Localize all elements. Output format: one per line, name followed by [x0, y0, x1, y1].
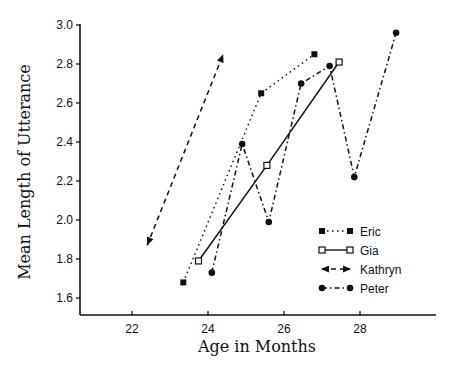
line-chart: 1.61.82.02.22.42.62.83.022242628 EricGia…	[0, 0, 450, 371]
open-square-marker	[319, 247, 325, 253]
series-line	[199, 62, 340, 261]
circle-marker	[266, 219, 273, 226]
x-tick-label: 28	[353, 322, 367, 336]
y-tick-label: 2.8	[56, 57, 73, 71]
y-tick-label: 2.6	[56, 96, 73, 110]
circle-marker	[351, 174, 358, 181]
open-square-marker	[264, 162, 270, 168]
y-tick-label: 3.0	[56, 18, 73, 32]
square-marker	[180, 279, 186, 285]
circle-marker	[239, 141, 246, 148]
legend-item-kathryn: Kathryn	[321, 263, 401, 277]
legend-label: Kathryn	[360, 263, 401, 277]
y-tick-label: 1.8	[56, 252, 73, 266]
square-marker	[319, 228, 325, 234]
square-marker	[311, 51, 317, 57]
y-tick-label: 2.4	[56, 135, 73, 149]
circle-marker	[326, 63, 333, 70]
series-eric	[180, 51, 317, 285]
legend-item-eric: Eric	[319, 225, 381, 239]
circle-marker	[319, 285, 326, 292]
circle-marker	[393, 30, 400, 37]
square-marker	[347, 228, 353, 234]
circle-marker	[298, 80, 305, 87]
x-tick-label: 26	[277, 322, 291, 336]
series-kathryn	[147, 54, 224, 245]
series-line	[147, 54, 223, 245]
x-axis-title: Age in Months	[197, 337, 316, 356]
square-marker	[258, 90, 264, 96]
arrowhead-icon	[343, 266, 351, 273]
legend-label: Gia	[360, 244, 379, 258]
legend-item-gia: Gia	[319, 244, 379, 258]
arrowhead-icon	[217, 54, 224, 63]
y-axis-title: Mean Length of Utterance	[15, 64, 34, 280]
legend-label: Eric	[360, 225, 381, 239]
circle-marker	[209, 269, 216, 276]
circle-marker	[347, 285, 354, 292]
series-line	[183, 54, 314, 282]
open-square-marker	[347, 247, 353, 253]
arrowhead-icon	[147, 237, 154, 246]
legend-item-peter: Peter	[319, 282, 389, 296]
y-tick-label: 2.2	[56, 174, 73, 188]
legend: EricGiaKathrynPeter	[319, 225, 402, 296]
x-tick-label: 24	[201, 322, 215, 336]
legend-label: Peter	[360, 282, 389, 296]
x-tick-label: 22	[125, 322, 139, 336]
arrowhead-icon	[321, 266, 329, 273]
open-square-marker	[336, 59, 342, 65]
open-square-marker	[196, 258, 202, 264]
y-tick-label: 2.0	[56, 213, 73, 227]
y-tick-label: 1.6	[56, 291, 73, 305]
